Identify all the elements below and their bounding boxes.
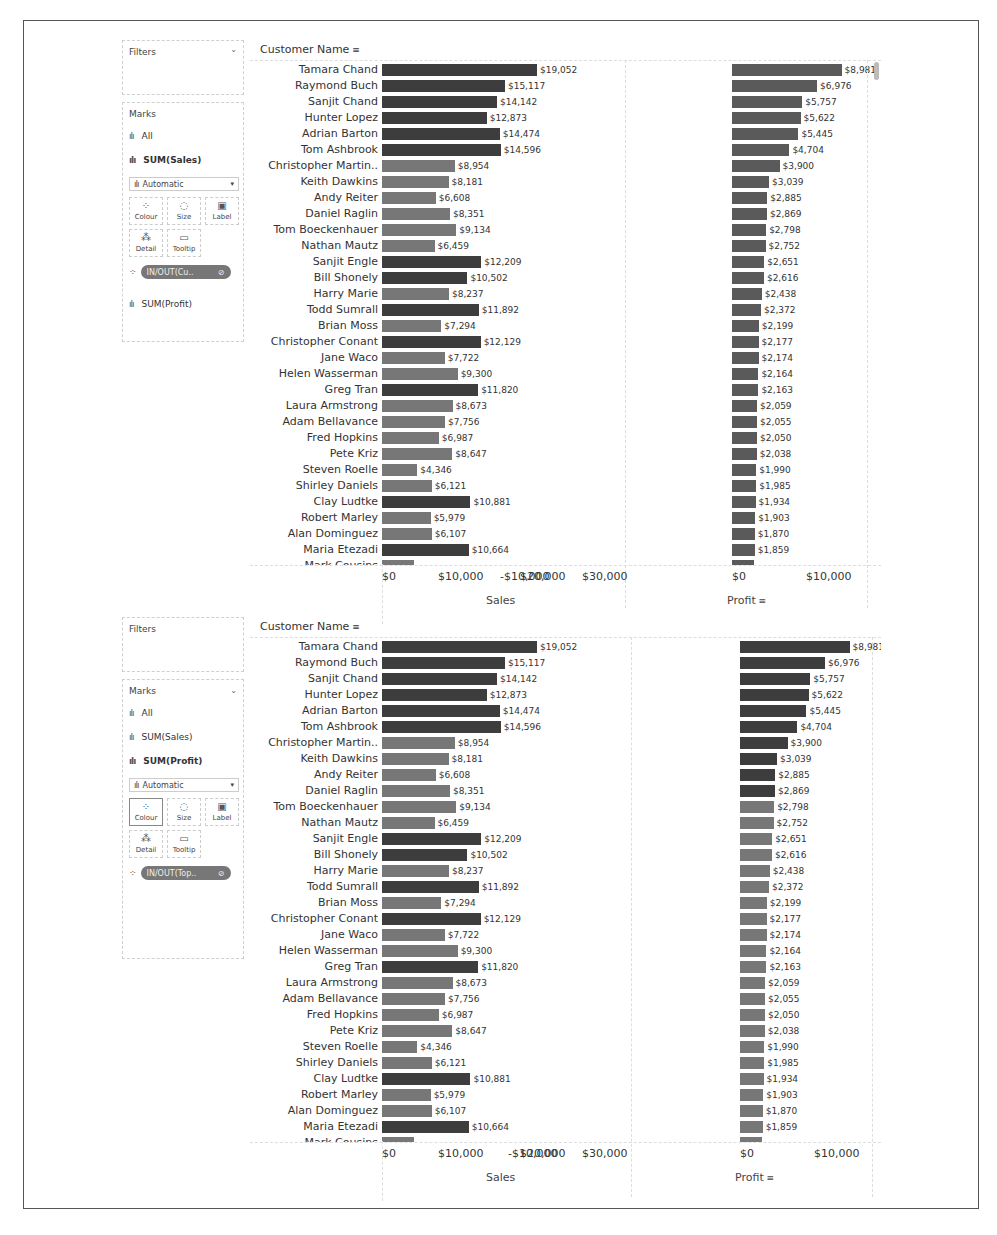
sales-bar[interactable] [382,192,436,204]
table-row[interactable]: Christopher Conant$12,129$2,177 [250,334,881,350]
profit-bar[interactable] [740,993,765,1005]
profit-bar[interactable] [740,881,769,893]
sales-bar[interactable] [382,96,497,108]
table-row[interactable]: Adrian Barton$14,474$5,445 [250,126,881,142]
sales-bar[interactable] [382,144,501,156]
table-row[interactable]: Clay Ludtke$10,881$1,934 [250,1071,881,1087]
sales-bar[interactable] [382,544,469,556]
profit-bar[interactable] [732,192,767,204]
table-row[interactable]: Helen Wasserman$9,300$2,164 [250,943,881,959]
table-row[interactable]: Todd Sumrall$11,892$2,372 [250,302,881,318]
table-row[interactable]: Sanjit Engle$12,209$2,651 [250,831,881,847]
table-row[interactable]: Brian Moss$7,294$2,199 [250,318,881,334]
profit-bar[interactable] [740,785,775,797]
sales-bar[interactable] [382,673,497,685]
sales-bar[interactable] [382,416,445,428]
profit-bar[interactable] [740,721,797,733]
profit-bar[interactable] [740,977,765,989]
sales-bar[interactable] [382,64,537,76]
sales-bar[interactable] [382,1121,469,1133]
table-row[interactable]: Steven Roelle$4,346$1,990 [250,462,881,478]
row-header[interactable]: Customer Name ≡ [260,620,360,633]
profit-bar[interactable] [732,512,755,524]
colour-field-pill[interactable]: ⁘IN/OUT(Top..⊘ [129,866,231,880]
table-row[interactable]: Bill Shonely$10,502$2,616 [250,270,881,286]
profit-bar[interactable] [732,288,762,300]
sales-bar[interactable] [382,1041,417,1053]
table-row[interactable]: Robert Marley$5,979$1,903 [250,510,881,526]
sales-bar[interactable] [382,833,481,845]
sales-bar[interactable] [382,641,537,653]
marks-tab-profit[interactable]: ılıSUM(Profit) [129,756,202,766]
sales-bar[interactable] [382,897,441,909]
sort-icon[interactable]: ≡ [349,622,359,632]
profit-bar[interactable] [740,1041,764,1053]
profit-bar[interactable] [740,801,774,813]
profit-bar[interactable] [732,272,764,284]
table-row[interactable]: Steven Roelle$4,346$1,990 [250,1039,881,1055]
filters-shelf[interactable]: Filters [122,617,244,672]
table-row[interactable]: Tom Ashbrook$14,596$4,704 [250,142,881,158]
profit-bar[interactable] [740,833,772,845]
profit-bar[interactable] [732,368,758,380]
table-row[interactable]: Harry Marie$8,237$2,438 [250,286,881,302]
table-row[interactable]: Keith Dawkins$8,181$3,039 [250,174,881,190]
profit-bar[interactable] [740,897,767,909]
table-row[interactable]: Brian Moss$7,294$2,199 [250,895,881,911]
table-row[interactable]: Raymond Buch$15,117$6,976 [250,78,881,94]
sales-bar[interactable] [382,224,456,236]
sales-bar[interactable] [382,817,435,829]
sales-axis-title[interactable]: Sales [486,1171,515,1184]
sales-bar[interactable] [382,1105,432,1117]
sales-bar[interactable] [382,336,481,348]
profit-bar[interactable] [732,304,761,316]
chevron-down-icon[interactable]: ⌄ [230,45,237,54]
profit-bar[interactable] [740,1009,765,1021]
table-row[interactable]: Raymond Buch$15,117$6,976 [250,655,881,671]
profit-bar[interactable] [740,865,770,877]
sales-bar[interactable] [382,272,467,284]
profit-bar[interactable] [732,96,802,108]
sales-bar[interactable] [382,977,453,989]
table-row[interactable]: Pete Kriz$8,647$2,038 [250,446,881,462]
chevron-down-icon[interactable]: ⌄ [230,686,237,695]
sort-icon[interactable]: ≡ [764,1173,774,1183]
profit-bar[interactable] [740,1073,764,1085]
profit-bar[interactable] [732,416,757,428]
profit-bar[interactable] [732,224,766,236]
table-row[interactable]: Alan Dominguez$6,107$1,870 [250,1103,881,1119]
table-row[interactable]: Keith Dawkins$8,181$3,039 [250,751,881,767]
profit-bar[interactable] [732,384,758,396]
marks-tab-all[interactable]: ılıAll [129,708,153,718]
sales-bar[interactable] [382,480,432,492]
marks-tab-sales[interactable]: ılıSUM(Sales) [129,155,201,165]
sales-bar[interactable] [382,961,478,973]
table-row[interactable]: Harry Marie$8,237$2,438 [250,863,881,879]
sales-bar[interactable] [382,945,458,957]
sales-bar[interactable] [382,80,505,92]
profit-bar[interactable] [740,705,806,717]
profit-bar[interactable] [732,144,789,156]
marks-tab-all[interactable]: ılıAll [129,131,153,141]
profit-bar[interactable] [732,240,766,252]
profit-bar[interactable] [740,929,767,941]
sales-bar[interactable] [382,737,455,749]
sales-axis-title[interactable]: Sales [486,594,515,607]
marks-tab-profit[interactable]: ılıSUM(Profit) [129,299,192,309]
table-row[interactable]: Greg Tran$11,820$2,163 [250,959,881,975]
table-row[interactable]: Sanjit Engle$12,209$2,651 [250,254,881,270]
sales-bar[interactable] [382,128,500,140]
table-row[interactable]: Greg Tran$11,820$2,163 [250,382,881,398]
sales-bar[interactable] [382,160,455,172]
profit-bar[interactable] [740,849,772,861]
sales-bar[interactable] [382,689,487,701]
table-row[interactable]: Nathan Mautz$6,459$2,752 [250,238,881,254]
sales-bar[interactable] [382,496,470,508]
marks-tab-sales[interactable]: ılıSUM(Sales) [129,732,193,742]
table-row[interactable]: Alan Dominguez$6,107$1,870 [250,526,881,542]
table-row[interactable]: Andy Reiter$6,608$2,885 [250,767,881,783]
table-row[interactable]: Adrian Barton$14,474$5,445 [250,703,881,719]
table-row[interactable]: Laura Armstrong$8,673$2,059 [250,975,881,991]
sales-bar[interactable] [382,240,435,252]
profit-bar[interactable] [732,336,759,348]
